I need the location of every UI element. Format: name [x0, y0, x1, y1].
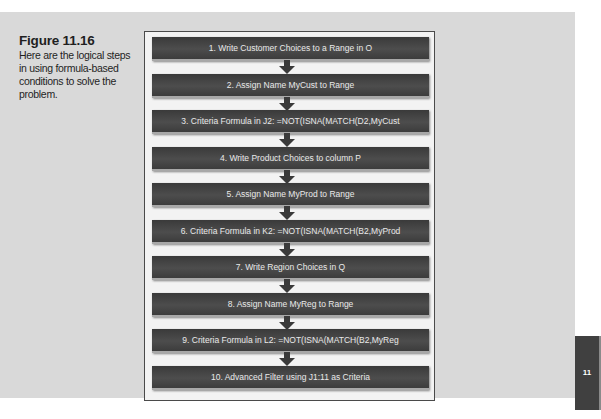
- flow-step-2: 2. Assign Name MyCust to Range: [152, 74, 429, 98]
- arrow-down-icon: [277, 170, 297, 184]
- figure-title: Figure 11.16: [19, 33, 139, 48]
- flow-step-7: 7. Write Region Choices in Q: [152, 256, 429, 280]
- arrow-down-icon: [277, 279, 297, 293]
- arrow-down-icon: [277, 206, 297, 220]
- flow-step-4: 4. Write Product Choices to column P: [152, 147, 429, 171]
- figure-caption: Figure 11.16 Here are the logical steps …: [19, 33, 139, 101]
- flow-step-9: 9. Criteria Formula in L2: =NOT(ISNA(MAT…: [152, 329, 429, 353]
- flowchart-frame: 1. Write Customer Choices to a Range in …: [144, 31, 435, 401]
- chapter-thumb-tab: 11: [575, 336, 601, 410]
- flow-step-1: 1. Write Customer Choices to a Range in …: [152, 37, 429, 61]
- arrow-down-icon: [277, 60, 297, 74]
- figure-description: Here are the logical steps in using form…: [19, 49, 139, 101]
- flow-step-8: 8. Assign Name MyReg to Range: [152, 293, 429, 317]
- arrow-down-icon: [277, 97, 297, 111]
- arrow-down-icon: [277, 316, 297, 330]
- flow-step-3: 3. Criteria Formula in J2: =NOT(ISNA(MAT…: [152, 110, 429, 134]
- flow-step-6: 6. Criteria Formula in K2: =NOT(ISNA(MAT…: [152, 220, 429, 244]
- flow-step-5: 5. Assign Name MyProd to Range: [152, 183, 429, 207]
- arrow-down-icon: [277, 352, 297, 366]
- arrow-down-icon: [277, 133, 297, 147]
- flow-step-10: 10. Advanced Filter using J1:11 as Crite…: [152, 366, 429, 390]
- arrow-down-icon: [277, 243, 297, 257]
